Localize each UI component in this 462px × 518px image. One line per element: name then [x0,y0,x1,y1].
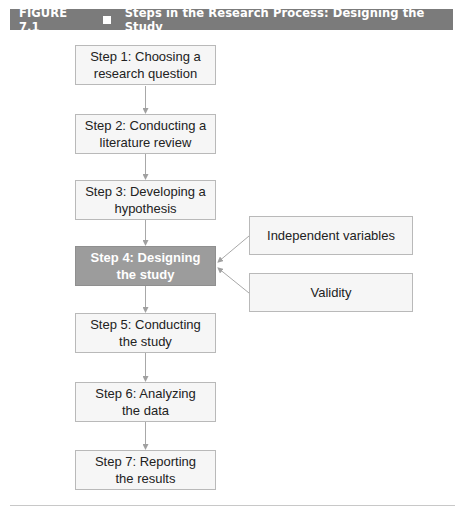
step-6-box: Step 6: Analyzing the data [75,382,216,422]
step-6-label: Step 6: Analyzing the data [95,385,195,419]
bottom-rule-divider [10,505,455,506]
independent-variables-label: Independent variables [267,227,395,244]
arrow-independent-variables-to-step4 [218,236,249,262]
step-4-label: Step 4: Designing the study [91,249,201,283]
step-2-box: Step 2: Conducting a literature review [75,114,216,154]
independent-variables-box: Independent variables [249,216,413,255]
arrow-validity-to-step4 [218,268,249,293]
step-1-label: Step 1: Choosing a research question [90,48,201,82]
step-4-box-highlighted: Step 4: Designing the study [75,246,216,286]
step-5-box: Step 5: Conducting the study [75,313,216,353]
step-1-box: Step 1: Choosing a research question [75,45,216,85]
step-2-label: Step 2: Conducting a literature review [85,117,206,151]
step-7-label: Step 7: Reporting the results [95,453,196,487]
step-3-box: Step 3: Developing a hypothesis [75,180,216,220]
step-5-label: Step 5: Conducting the study [90,316,201,350]
step-3-label: Step 3: Developing a hypothesis [85,183,206,217]
step-7-box: Step 7: Reporting the results [75,450,216,490]
validity-box: Validity [249,273,413,312]
flow-connectors [0,0,462,518]
validity-label: Validity [311,284,352,301]
